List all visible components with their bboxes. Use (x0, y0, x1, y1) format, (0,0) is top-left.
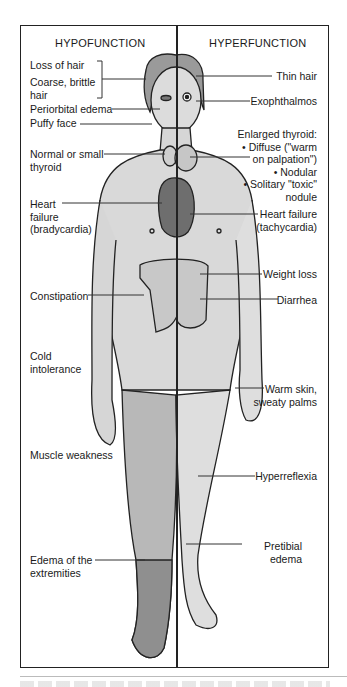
caption-divider (20, 676, 347, 677)
figure-caption-truncated (20, 681, 330, 687)
leader-lines (0, 0, 347, 687)
